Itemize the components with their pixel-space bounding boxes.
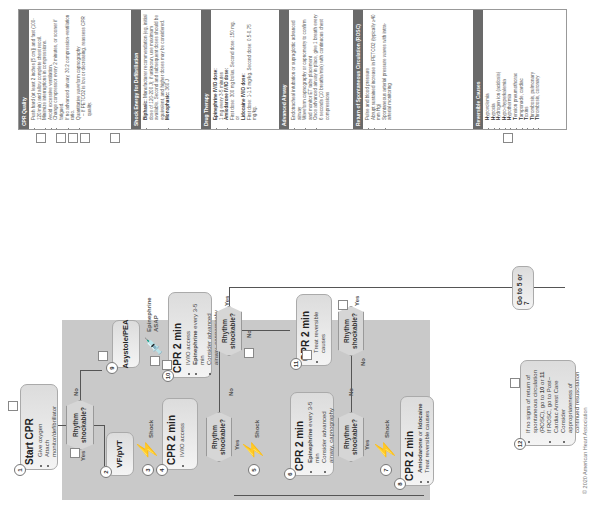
connector xyxy=(234,495,424,496)
step-6-title: CPR 2 min xyxy=(294,397,306,471)
panel-advanced-airway: Advanced Airway Endotracheal intubation … xyxy=(279,10,353,129)
panel-shock-energy: Shock Energy for Defibrillation Biphasic… xyxy=(131,10,201,129)
panel-cpr-quality-title: CPR Quality xyxy=(19,10,29,129)
cpr-quality-subitem: – If PETCO2 is low or decreasing, reasse… xyxy=(81,13,92,126)
cpr-quality-item: Push hard (at least 2 inches [5 cm]) and… xyxy=(31,13,42,120)
step-number-3: 3 xyxy=(142,464,154,476)
shock-icon: ⚡ xyxy=(138,439,156,461)
checkbox-drug-therapy[interactable] xyxy=(68,133,78,143)
checkbox-shock-energy[interactable] xyxy=(56,133,66,143)
yes-label: Yes xyxy=(234,440,240,450)
connector xyxy=(104,425,105,466)
step-10-cpr-2-min[interactable]: CPR 2 min IV/IO access Epinephrine every… xyxy=(168,292,212,378)
biphasic-label: Biphasic: xyxy=(143,99,148,120)
epi-dose-text: 1 mg every 3-5 minutes xyxy=(219,72,224,120)
checkbox-decision-4[interactable] xyxy=(244,348,254,358)
checkbox-step-10[interactable] xyxy=(162,360,172,370)
step-number-7: 7 xyxy=(380,464,392,476)
checkbox-advanced-airway[interactable] xyxy=(80,133,90,143)
shock-label: Shock xyxy=(384,420,390,438)
step-1-item: Give oxygen xyxy=(37,389,44,457)
panel-reversible-causes-title: Reversible Causes xyxy=(473,10,483,129)
airway-item: Endotracheal intubation or supraglottic … xyxy=(291,13,302,120)
copyright: © 2020 American Heart Association xyxy=(582,407,588,494)
step-6-item: Consider advanced airway, capnography xyxy=(321,397,335,463)
panel-reversible-causes: Reversible Causes Hypovolemia Hypoxia Hy… xyxy=(473,10,543,129)
checkbox-reversible-causes[interactable] xyxy=(503,133,513,143)
step-2-title: VF/pVT xyxy=(114,440,126,468)
step-12-item: If ROSC, go to Post–Cardiac Arrest Care xyxy=(546,365,560,433)
checkbox-step-12[interactable] xyxy=(510,378,520,388)
syringe-icon: 💉 xyxy=(144,336,163,356)
info-panels: CPR Quality Push hard (at least 2 inches… xyxy=(18,9,567,130)
no-label: No xyxy=(246,330,252,338)
decision-rhythm-shockable-2[interactable]: Rhythm shockable? xyxy=(206,412,232,462)
connector xyxy=(229,288,230,306)
monophasic-text: 360 J xyxy=(165,79,170,90)
epinephrine-asap-label: Epinephrine ASAP xyxy=(146,292,160,332)
checkbox-step-1[interactable] xyxy=(8,401,18,411)
panel-advanced-airway-title: Advanced Airway xyxy=(279,10,289,129)
step-4-title: CPR 2 min xyxy=(166,403,178,465)
yes-label: Yes xyxy=(364,440,370,450)
rosc-item: Spontaneous arterial pressure waves with… xyxy=(382,13,393,120)
panel-drug-therapy: Drug Therapy Epinephrine IV/IO dose:1 mg… xyxy=(201,10,279,129)
panel-cpr-quality: CPR Quality Push hard (at least 2 inches… xyxy=(19,10,131,129)
step-12-item: Consider appropriateness of continued re… xyxy=(560,365,581,433)
step-number-6: 6 xyxy=(284,468,296,480)
step-9-asystole-pea[interactable]: Asystole/PEA xyxy=(112,320,140,368)
no-label: No xyxy=(73,388,79,396)
epinephrine-label: Epinephrine xyxy=(307,428,313,463)
step-number-8: 8 xyxy=(394,478,406,490)
step-8-cpr-2-min[interactable]: CPR 2 min Amiodarone or lidocaine Treat … xyxy=(400,396,434,486)
connector xyxy=(242,330,290,331)
panel-rosc-title: Return of Spontaneous Circulation (ROSC) xyxy=(353,10,363,129)
decision-rhythm-shockable-5[interactable]: Rhythm shockable? xyxy=(338,306,364,356)
step-4-cpr-2-min[interactable]: CPR 2 min IV/IO access xyxy=(162,398,198,470)
or-text: or xyxy=(235,116,240,120)
step-number-1: 1 xyxy=(14,464,26,476)
step-1-item: Attach monitor/defibrillator xyxy=(44,389,58,457)
decision-rhythm-shockable-1[interactable]: Rhythm shockable? xyxy=(66,400,94,450)
step-6-cpr-2-min[interactable]: CPR 2 min Epinephrine every 3-5 min Cons… xyxy=(290,392,334,476)
epi-dose-label: Epinephrine IV/IO dose: xyxy=(213,68,218,120)
step-8-title: CPR 2 min xyxy=(404,401,416,481)
checkbox-epinephrine[interactable] xyxy=(150,356,160,366)
cause-item: Thrombosis, coronary xyxy=(535,13,541,120)
checkbox-decision-5[interactable] xyxy=(338,300,348,310)
step-12-next-steps[interactable]: If no signs of return of spontaneous cir… xyxy=(520,360,576,446)
connector xyxy=(80,370,102,371)
go-to-5-or-7[interactable]: Go to 5 or 7 xyxy=(512,266,534,310)
step-4-item: IV/IO access xyxy=(179,403,186,457)
yes-label: Yes xyxy=(80,451,86,461)
rosc-item: Abrupt sustained increase in PETCO2 (typ… xyxy=(371,13,382,120)
shock-icon: ⚡ xyxy=(244,439,262,461)
step-number-5: 5 xyxy=(248,464,260,476)
step-number-4: 4 xyxy=(156,464,168,476)
airway-item: Waveform capnography or capnometry to co… xyxy=(302,13,313,120)
checkbox-rosc[interactable] xyxy=(110,133,120,143)
cpr-quality-item: Change compressor every 2 minutes, or so… xyxy=(53,13,64,120)
panel-drug-therapy-title: Drug Therapy xyxy=(201,10,211,129)
cpr-quality-item: If no advanced airway, 30:2 compression-… xyxy=(65,13,76,120)
panel-shock-energy-title: Shock Energy for Defibrillation xyxy=(131,10,141,129)
checkbox-cpr-quality[interactable] xyxy=(36,133,46,143)
lido-dose-label: Lidocaine IV/IO dose: xyxy=(241,73,246,120)
connector xyxy=(58,425,66,426)
shock-label: Shock xyxy=(148,420,154,438)
checkbox-decision-1[interactable] xyxy=(70,448,80,458)
shock-icon: ⚡ xyxy=(376,439,394,461)
step-9-title: Asystole/PEA xyxy=(120,320,132,369)
checkbox-step-11[interactable] xyxy=(302,350,312,360)
step-8-item: Treat reversible causes xyxy=(424,401,431,473)
decision-rhythm-shockable-3[interactable]: Rhythm shockable? xyxy=(338,412,364,462)
checkbox-step-9[interactable] xyxy=(98,351,108,361)
step-number-9: 9 xyxy=(106,362,118,374)
decision-rhythm-shockable-4[interactable]: Rhythm shockable? xyxy=(216,306,242,356)
step-1-title: Start CPR xyxy=(24,389,36,465)
lido-dose-text: First dose: 1-1.5 mg/kg. Second dose: 0.… xyxy=(247,24,258,120)
step-1-start-cpr[interactable]: Start CPR Give oxygen Attach monitor/def… xyxy=(20,384,58,470)
step-number-11: 11 xyxy=(290,358,302,370)
step-10-title: CPR 2 min xyxy=(172,297,184,373)
step-11-item: Treat reversible causes xyxy=(313,299,327,353)
